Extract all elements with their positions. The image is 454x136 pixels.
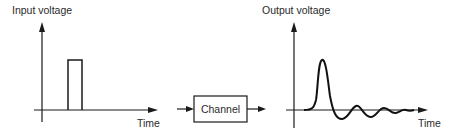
channel-output-arrow-icon: [258, 106, 266, 112]
output-time-label: Time: [418, 117, 441, 129]
input-y-arrow-icon: [39, 22, 45, 32]
input-pulse: [68, 60, 82, 110]
input-x-arrow-icon: [148, 107, 158, 113]
channel-label: Channel: [201, 103, 240, 115]
output-voltage-label: Output voltage: [262, 4, 330, 16]
output-y-arrow-icon: [291, 22, 297, 32]
channel-block: Channel: [177, 96, 266, 122]
output-plot: Output voltage Time: [262, 4, 441, 129]
input-voltage-label: Input voltage: [12, 4, 72, 16]
input-time-label: Time: [137, 117, 160, 129]
channel-diagram: Input voltage Time Channel Output voltag…: [0, 0, 454, 136]
output-x-arrow-icon: [418, 107, 428, 113]
channel-input-arrow-icon: [186, 106, 194, 112]
input-plot: Input voltage Time: [12, 4, 160, 129]
